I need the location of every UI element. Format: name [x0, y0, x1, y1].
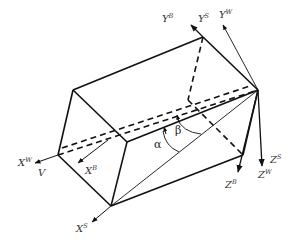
label-beta: β	[175, 124, 181, 137]
xs-axis-arrow	[92, 206, 111, 222]
diagram-svg: YB YS YW XW V XB XS ZB ZS ZW α β	[0, 0, 295, 242]
edge-front-diagonal	[73, 90, 127, 142]
edge-left	[58, 90, 73, 155]
label-xb: XB	[84, 164, 97, 176]
ys-axis-arrow	[191, 25, 203, 37]
label-zs: ZS	[269, 153, 282, 165]
label-zb: ZB	[224, 178, 237, 190]
hidden-edge-vertical	[188, 37, 203, 100]
edge-left-bottom	[58, 155, 111, 206]
label-ys: YS	[198, 12, 210, 24]
yw-axis-arrow	[223, 25, 258, 90]
zb-axis-arrow	[238, 90, 258, 172]
edge-inner-diagonal	[111, 90, 258, 206]
zw-axis-arrow	[258, 90, 262, 166]
edge-middle	[127, 90, 258, 142]
label-zw: ZW	[257, 168, 273, 180]
label-yb: YB	[162, 12, 174, 24]
alpha-tick-arrow	[164, 127, 166, 134]
label-xw: XW	[17, 156, 33, 168]
xw-axis-arrow	[35, 155, 58, 163]
xb-axis-arrow	[78, 140, 108, 163]
edge-top	[73, 37, 203, 90]
label-v: V	[38, 167, 47, 178]
label-alpha: α	[154, 138, 162, 151]
label-xs: XS	[75, 222, 88, 234]
coordinate-frames-diagram: YB YS YW XW V XB XS ZB ZS ZW α β	[0, 0, 295, 242]
label-yw: YW	[219, 8, 234, 20]
edge-bottom	[111, 155, 243, 206]
edge-top-right	[203, 37, 258, 90]
edge-front-vertical	[111, 142, 127, 206]
